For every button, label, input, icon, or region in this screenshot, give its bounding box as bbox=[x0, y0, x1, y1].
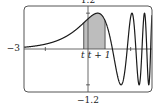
xmin-label: −3 bbox=[7, 43, 21, 53]
ymin-label: −1.2 bbox=[77, 95, 99, 105]
t-plus-1-label: t + 1 bbox=[88, 50, 111, 60]
ymax-label: 1.2 bbox=[81, 0, 95, 5]
t-label: t bbox=[81, 50, 85, 60]
shaded-area bbox=[84, 13, 105, 49]
chart: 1.2 −3 −1.2 t t + 1 bbox=[0, 0, 155, 107]
